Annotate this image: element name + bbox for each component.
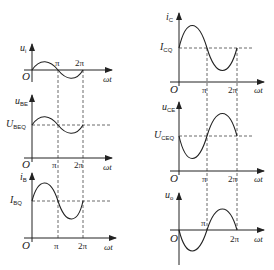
panel-uo: uo O π 2π ωt [165,189,264,265]
uce-label: uCE [162,101,175,113]
panel-ib: iB IBQ O π 2π ωt [9,171,116,252]
origin-label: O [170,83,178,95]
x-axis-label: ωt [103,74,112,84]
origin-label: O [170,172,178,184]
panel-ui: ui O π 2π ωt [20,42,112,84]
x-axis-label: ωt [103,162,112,172]
x-axis-label: ωt [104,242,113,252]
ib-label: iB [20,171,27,183]
origin-label: O [22,70,30,82]
ubeq-label: UBEQ [6,118,26,130]
origin-label: O [170,232,178,244]
ibq-label: IBQ [9,194,22,206]
origin-label: O [22,239,30,251]
icq-label: ICQ [159,41,173,53]
panel-ube: uBE UBEQ O π 2π ωt [6,95,112,172]
2pi-tick: 2π [75,58,85,68]
x-axis-label: ωt [254,85,263,95]
x-axis-label: ωt [254,174,263,184]
pi-tick: π [202,85,207,95]
ui-label: ui [20,42,26,54]
panel-ic: iC ICQ O π 2π ωt [159,11,264,95]
ic-curve [179,26,237,71]
2pi-tick: 2π [78,241,88,251]
ic-label: iC [166,11,174,23]
uo-label: uo [165,189,174,201]
2pi-tick: 2π [230,234,240,244]
origin-label: O [22,158,30,170]
2pi-tick: 2π [228,174,238,184]
pi-tick: π [52,160,57,170]
pi-tick: π [55,58,60,68]
uceq-label: UCEQ [154,129,175,141]
pi-tick: π [201,218,206,228]
pi-tick: π [202,174,207,184]
uce-curve [179,114,237,159]
ube-label: uBE [15,95,28,107]
2pi-tick: 2π [228,85,238,95]
x-axis-label: ωt [254,234,263,244]
amplifier-waveform-diagram: ui O π 2π ωt uBE UBEQ O π 2π ωt iB IBQ O… [0,0,274,270]
panel-uce: uCE UCEQ O π 2π ωt [154,101,264,184]
pi-tick: π [54,241,59,251]
2pi-tick: 2π [74,160,84,170]
